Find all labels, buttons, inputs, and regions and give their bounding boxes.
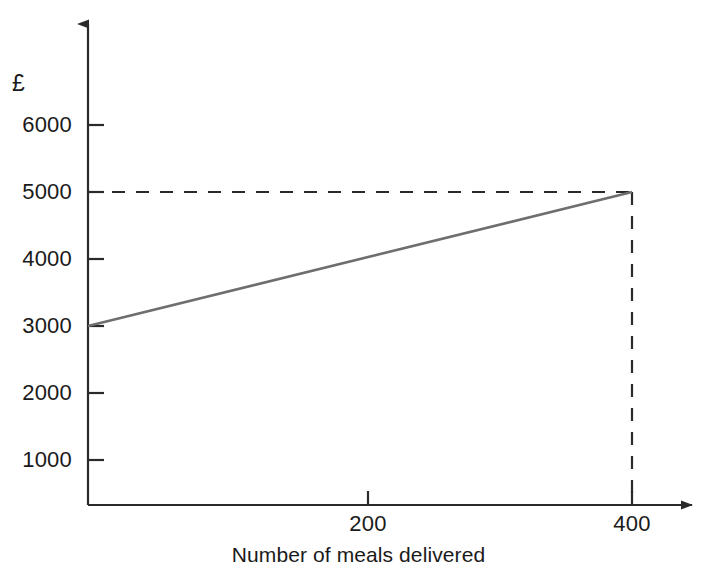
y-tick-label-3000: 3000 (0, 315, 72, 337)
chart-figure: £ 6000 5000 4000 3000 2000 1000 200 400 … (0, 0, 717, 576)
chart-plot-area (0, 0, 717, 576)
y-axis-ticks (88, 125, 104, 460)
y-tick-label-1000: 1000 (0, 449, 72, 471)
x-axis-ticks (368, 491, 632, 505)
x-tick-label-400: 400 (572, 513, 692, 535)
cost-line-series (88, 192, 632, 326)
x-tick-label-200: 200 (308, 513, 428, 535)
y-tick-label-2000: 2000 (0, 382, 72, 404)
y-tick-label-6000: 6000 (0, 114, 72, 136)
y-tick-label-5000: 5000 (0, 181, 72, 203)
y-tick-label-4000: 4000 (0, 248, 72, 270)
y-axis-unit-label: £ (12, 72, 25, 95)
x-axis-title: Number of meals delivered (0, 544, 717, 565)
